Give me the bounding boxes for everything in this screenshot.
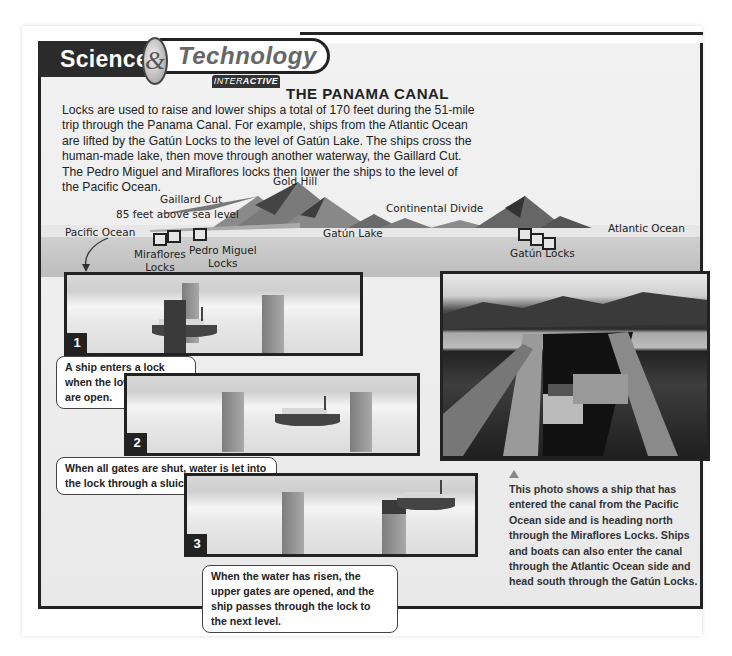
label-atlantic-ocean: Atlantic Ocean: [608, 222, 685, 234]
label-gaillard-cut: Gaillard Cut: [160, 193, 222, 205]
lock-step-panel-2: 2: [124, 373, 420, 456]
gate-icon: [282, 492, 304, 556]
photo-caption: This photo shows a ship that has entered…: [509, 482, 709, 590]
step-3-callout: When the water has risen, the upper gate…: [202, 565, 398, 633]
lock-step-panel-3: 3: [184, 473, 478, 557]
label-pacific-ocean: Pacific Ocean: [65, 226, 135, 238]
ship-icon: [397, 498, 455, 510]
label-gatun-lake: Gatún Lake: [323, 227, 383, 239]
miraflores-lock-2: [167, 230, 181, 243]
ampersand-icon: &: [142, 37, 168, 85]
label-pedro-miguel-locks: Pedro Miguel Locks: [189, 244, 257, 270]
technology-label: Technology: [178, 42, 317, 70]
miraflores-locks-photo: [440, 271, 710, 461]
label-gatun-locks: Gatún Locks: [510, 247, 575, 259]
miraflores-line1: Miraflores: [134, 248, 186, 261]
pedro-miguel-lock: [193, 228, 207, 241]
step-number: 1: [67, 333, 87, 353]
step-number: 2: [127, 433, 147, 453]
step-number: 3: [187, 534, 207, 554]
label-miraflores-locks: Miraflores Locks: [134, 248, 186, 274]
label-gold-hill: Gold Hill: [273, 175, 317, 187]
label-continental-divide: Continental Divide: [386, 202, 483, 214]
caption-marker-icon: [509, 470, 519, 478]
pedro-miguel-line2: Locks: [189, 257, 257, 270]
miraflores-lock-1: [153, 233, 167, 246]
ship-icon: [275, 414, 340, 426]
pedro-miguel-line1: Pedro Miguel: [189, 244, 257, 257]
lock-step-panel-1: 1: [64, 272, 363, 356]
label-gaillard-elevation: 85 feet above sea level: [116, 208, 239, 220]
gate-icon: [164, 300, 186, 356]
gate-icon: [262, 295, 284, 355]
technology-banner: Technology: [160, 38, 330, 74]
photo-locks-illustration: [443, 274, 707, 458]
gate-icon: [350, 392, 372, 452]
gate-icon: [222, 392, 244, 452]
